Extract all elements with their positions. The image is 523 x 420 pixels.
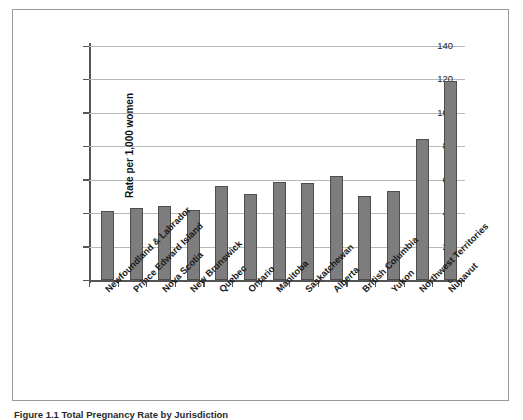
gridline xyxy=(89,146,465,147)
gridline xyxy=(89,113,465,114)
gridline xyxy=(89,79,465,80)
bar xyxy=(358,196,371,280)
y-axis-tick xyxy=(83,179,89,181)
y-axis-tick xyxy=(83,79,89,81)
y-axis-tick xyxy=(83,246,89,248)
bar xyxy=(416,139,429,280)
y-axis-tick xyxy=(83,213,89,215)
y-axis-tick xyxy=(83,112,89,114)
y-axis-title: Rate per 1,000 women xyxy=(124,66,135,226)
gridline xyxy=(89,180,465,181)
figure-frame: 020406080100120140 Rate per 1,000 women … xyxy=(12,9,509,401)
x-axis-tick xyxy=(89,281,90,287)
gridline xyxy=(89,46,465,47)
bar xyxy=(273,182,286,280)
y-axis-tick-label: 140 xyxy=(419,41,453,51)
y-axis-tick xyxy=(83,46,89,48)
bar xyxy=(101,211,114,280)
figure-caption: Figure 1.1 Total Pregnancy Rate by Juris… xyxy=(14,409,228,420)
y-axis-tick xyxy=(83,146,89,148)
